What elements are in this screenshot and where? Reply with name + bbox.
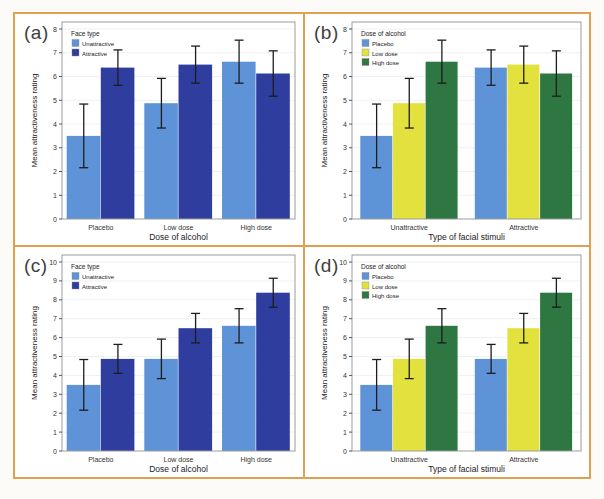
bar-chart-svg: 012345678910Mean attractiveness ratingUn… [305, 247, 589, 477]
y-axis-title: Mean attractiveness rating [320, 306, 329, 400]
legend-swatch [362, 292, 369, 299]
x-axis-title: Dose of alcohol [149, 464, 208, 474]
bar-chart-svg: 012345678910Mean attractiveness ratingPl… [15, 247, 303, 477]
y-tick-label: 7 [53, 315, 57, 322]
x-axis: UnattractiveAttractiveType of facial sti… [391, 224, 539, 242]
panel-d: (d) 012345678910Mean attractiveness rati… [305, 247, 589, 477]
legend-swatch [72, 49, 79, 56]
y-tick-label: 7 [343, 315, 347, 322]
bar [426, 62, 458, 219]
legend-title: Face type [71, 30, 100, 38]
y-tick-label: 8 [343, 296, 347, 303]
x-tick-label: Placebo [88, 456, 113, 463]
legend-label: Placebo [372, 41, 394, 47]
bar-chart-svg: 012345678Mean attractiveness ratingPlace… [15, 14, 303, 245]
x-tick-label: Unattractive [391, 456, 428, 463]
y-tick-label: 0 [343, 216, 347, 223]
legend-label: Low dose [372, 284, 398, 290]
x-axis-title: Type of facial stimuli [428, 464, 505, 474]
y-tick-label: 3 [343, 144, 347, 151]
x-tick-label: Attractive [509, 456, 538, 463]
panel-a-letter: (a) [24, 22, 49, 44]
bar [256, 293, 290, 451]
y-tick-label: 2 [53, 168, 57, 175]
x-tick-label: Placebo [88, 224, 113, 231]
y-tick-label: 4 [343, 121, 347, 128]
x-tick-label: Low dose [164, 456, 194, 463]
legend-swatch [362, 273, 369, 280]
y-tick-label: 1 [53, 192, 57, 199]
x-axis: PlaceboLow doseHigh doseDose of alcohol [88, 224, 272, 242]
y-tick-label: 10 [49, 259, 57, 266]
y-tick-label: 6 [53, 73, 57, 80]
bar [101, 68, 135, 219]
y-tick-label: 3 [343, 391, 347, 398]
x-axis: UnattractiveAttractiveType of facial sti… [391, 456, 539, 474]
legend-label: High dose [372, 293, 400, 299]
panel-d-letter: (d) [314, 255, 339, 277]
legend-swatch [362, 282, 369, 289]
y-tick-label: 4 [53, 121, 57, 128]
x-axis-title: Dose of alcohol [149, 232, 208, 242]
bar [507, 65, 539, 219]
y-tick-label: 6 [53, 334, 57, 341]
y-tick-label: 3 [53, 144, 57, 151]
panel-c-letter: (c) [24, 255, 48, 277]
y-tick-label: 3 [53, 391, 57, 398]
y-tick-label: 4 [343, 372, 347, 379]
y-axis-title: Mean attractiveness rating [30, 306, 39, 400]
y-tick-label: 9 [343, 277, 347, 284]
y-axis-title: Mean attractiveness rating [320, 74, 329, 168]
y-tick-label: 6 [343, 334, 347, 341]
y-tick-label: 8 [53, 296, 57, 303]
bar [222, 62, 256, 219]
legend-swatch [362, 49, 369, 56]
y-tick-label: 1 [343, 192, 347, 199]
y-tick-label: 5 [343, 353, 347, 360]
bar [540, 293, 572, 451]
legend-label: Unattractive [82, 274, 115, 280]
y-tick-label: 4 [53, 372, 57, 379]
y-tick-label: 9 [53, 277, 57, 284]
legend-title: Dose of alcohol [361, 263, 406, 270]
legend-swatch [72, 273, 79, 280]
panel-b-chart: 012345678Mean attractiveness ratingUnatt… [305, 14, 589, 245]
y-axis: 012345678910 [49, 259, 62, 455]
x-tick-label: High dose [240, 456, 272, 464]
y-tick-label: 8 [343, 26, 347, 33]
y-tick-label: 2 [53, 410, 57, 417]
y-tick-label: 0 [53, 448, 57, 455]
figure-frame: (a) 012345678Mean attractiveness ratingP… [13, 12, 591, 479]
y-tick-label: 5 [53, 97, 57, 104]
y-tick-label: 6 [343, 73, 347, 80]
y-tick-label: 2 [343, 410, 347, 417]
panel-d-chart: 012345678910Mean attractiveness ratingUn… [305, 247, 589, 477]
figure-page: (a) 012345678Mean attractiveness ratingP… [0, 0, 604, 499]
legend-swatch [72, 282, 79, 289]
bar [426, 326, 458, 451]
legend-swatch [72, 40, 79, 47]
y-tick-label: 5 [343, 97, 347, 104]
bar [222, 326, 256, 451]
y-tick-label: 7 [343, 49, 347, 56]
panel-c: (c) 012345678910Mean attractiveness rati… [15, 247, 305, 477]
y-tick-label: 1 [53, 429, 57, 436]
bar [507, 328, 539, 451]
x-tick-label: Attractive [509, 224, 538, 231]
x-axis: PlaceboLow doseHigh doseDose of alcohol [88, 456, 272, 474]
y-tick-label: 2 [343, 168, 347, 175]
x-tick-label: Unattractive [391, 224, 428, 231]
bar [179, 328, 213, 451]
y-tick-label: 0 [343, 448, 347, 455]
y-tick-label: 5 [53, 353, 57, 360]
panel-b-letter: (b) [314, 22, 339, 44]
bar [179, 65, 213, 219]
panel-a-chart: 012345678Mean attractiveness ratingPlace… [15, 14, 303, 245]
panel-b: (b) 012345678Mean attractiveness ratingU… [305, 14, 589, 247]
bar [475, 68, 507, 219]
legend-label: Low dose [372, 51, 398, 57]
legend-title: Dose of alcohol [361, 30, 406, 37]
y-axis: 012345678 [53, 26, 62, 223]
x-axis-title: Type of facial stimuli [428, 232, 505, 242]
x-tick-label: High dose [240, 224, 272, 232]
